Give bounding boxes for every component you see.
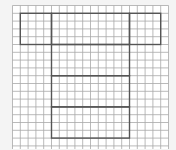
grid-net-diagram	[0, 0, 176, 149]
grid-lines	[13, 6, 169, 150]
